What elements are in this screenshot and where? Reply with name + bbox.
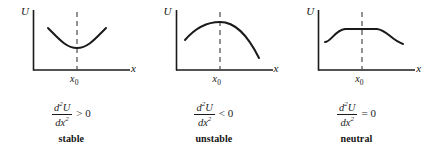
numerator-variable: U [205,101,213,112]
plot-unstable: U x x0 [143,0,286,92]
second-derivative-fraction: d2U dx2 [52,101,72,128]
equilibrium-point-label: x0 [355,74,363,87]
relation-operator: < 0 [219,108,233,120]
fraction-denominator: dx2 [53,115,70,128]
equilibrium-point-subscript: 0 [360,78,364,87]
numerator-variable: U [348,101,356,112]
y-axis-label: U [21,6,29,17]
relation-operator: = 0 [361,108,375,120]
state-label-unstable: unstable [143,133,286,144]
y-axis-label: U [306,6,314,17]
x-axis-label: x [416,63,421,74]
fraction-numerator: d2U [337,101,357,114]
equilibrium-point-label: x0 [70,74,78,87]
equilibrium-figure: U x x0 d2U dx2 > 0 stable [0,0,428,154]
denominator-exponent: 2 [350,115,354,123]
relation-operator: > 0 [76,108,90,120]
panel-stable: U x x0 d2U dx2 > 0 stable [0,0,143,154]
equilibrium-point-subscript: 0 [75,78,79,87]
second-derivative-fraction: d2U dx2 [337,101,357,128]
caption-unstable: d2U dx2 < 0 unstable [143,96,286,144]
plot-neutral: U x x0 [285,0,428,92]
state-label-neutral: neutral [285,133,428,144]
caption-neutral: d2U dx2 = 0 neutral [285,96,428,144]
x-axis-label: x [274,63,279,74]
fraction-denominator: dx2 [196,115,213,128]
denominator-dx: dx [341,116,351,127]
y-axis-label: U [164,6,172,17]
potential-curve-neutral [325,29,403,44]
fraction-numerator: d2U [52,101,72,114]
formula-neutral: d2U dx2 = 0 [337,101,376,128]
equilibrium-point-label: x0 [213,74,221,87]
fraction-numerator: d2U [194,101,214,114]
denominator-dx: dx [55,116,65,127]
state-label-stable: stable [0,133,143,144]
panel-neutral: U x x0 d2U dx2 = 0 neutral [285,0,428,154]
panel-row: U x x0 d2U dx2 > 0 stable [0,0,428,154]
formula-unstable: d2U dx2 < 0 [194,101,233,128]
denominator-exponent: 2 [208,115,212,123]
panel-unstable: U x x0 d2U dx2 < 0 unstable [143,0,286,154]
fraction-denominator: dx2 [339,115,356,128]
formula-stable: d2U dx2 > 0 [52,101,91,128]
equilibrium-point-subscript: 0 [217,78,221,87]
numerator-variable: U [63,101,71,112]
caption-stable: d2U dx2 > 0 stable [0,96,143,144]
x-axis-label: x [131,63,136,74]
plot-stable: U x x0 [0,0,143,92]
second-derivative-fraction: d2U dx2 [194,101,214,128]
potential-curve-unstable [185,22,259,58]
denominator-exponent: 2 [65,115,69,123]
denominator-dx: dx [198,116,208,127]
